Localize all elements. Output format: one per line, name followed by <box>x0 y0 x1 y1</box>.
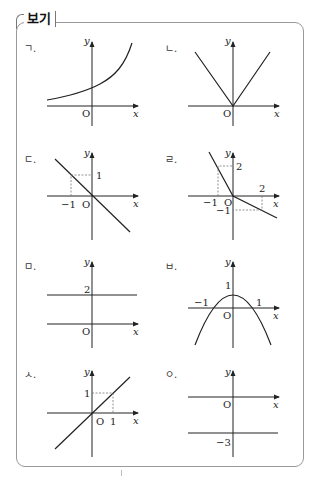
y-axis-label: y <box>83 256 90 267</box>
graph-d: ㄷ. 1 −1 y x O <box>24 147 139 240</box>
y-axis-label: y <box>83 366 90 377</box>
x-axis-label: x <box>133 415 139 426</box>
panel-label: ㅅ. <box>24 369 36 380</box>
y-axis-label: y <box>83 35 90 46</box>
x-axis-label: x <box>133 326 139 337</box>
tick-y-1: 1 <box>84 388 90 399</box>
panel-label: ㄷ. <box>24 154 36 165</box>
panel-label: ㅇ. <box>165 369 177 380</box>
y-axis-label: y <box>224 256 231 267</box>
origin-label: O <box>224 197 232 208</box>
graph-b: ㅂ. 1 −1 1 y x O <box>165 256 279 348</box>
graph-n: ㄴ. y x O <box>165 35 280 126</box>
panel-label: ㄴ. <box>165 43 177 54</box>
y-axis-label: y <box>224 35 231 46</box>
y-axis-label: y <box>83 147 90 158</box>
x-axis-label: x <box>274 108 280 119</box>
graph-s: ㅅ. 1 1 y x O <box>24 366 139 457</box>
tick-y-2: 2 <box>84 284 90 295</box>
tick-y-neg3: −3 <box>216 437 231 448</box>
graph-r: ㄹ. 2 2 −1 −1 y x O <box>165 147 279 240</box>
origin-label: O <box>82 108 90 119</box>
y-axis-label: y <box>224 366 231 377</box>
tick-y-1: 1 <box>225 280 231 291</box>
curve <box>47 43 132 100</box>
graph-o: ㅇ. −3 y x O <box>165 366 279 457</box>
origin-label: O <box>223 399 231 410</box>
tick-x-1: 1 <box>256 297 262 308</box>
x-axis-label: x <box>273 399 279 410</box>
tick-x-2: 2 <box>259 183 265 194</box>
panel-label: ㅂ. <box>165 261 177 272</box>
y-axis-label: y <box>224 147 231 158</box>
tick-y-1: 1 <box>96 170 102 181</box>
x-axis-label: x <box>133 108 139 119</box>
graph-g: ㄱ. y x O <box>24 35 139 126</box>
panel-label: ㅁ. <box>24 261 36 272</box>
origin-label: O <box>96 416 104 427</box>
x-axis-label: x <box>273 310 279 321</box>
tick-x-1: 1 <box>110 416 116 427</box>
tick-x-neg1: −1 <box>61 199 76 210</box>
tick-y-2: 2 <box>236 161 242 172</box>
panel-label: ㄱ. <box>24 43 36 54</box>
graph-grid: ㄱ. y x O ㄴ. y x O ㄷ. 1 −1 y x O ㄹ. <box>0 0 309 480</box>
origin-label: O <box>223 310 231 321</box>
panel-label: ㄹ. <box>165 154 177 165</box>
graph-m: ㅁ. 2 y x O <box>24 256 139 348</box>
origin-label: O <box>82 326 90 337</box>
page-mark <box>121 470 122 476</box>
x-axis-label: x <box>273 198 279 209</box>
x-axis-label: x <box>133 198 139 209</box>
origin-label: O <box>223 108 231 119</box>
tick-x-neg1: −1 <box>194 297 209 308</box>
origin-label: O <box>82 199 90 210</box>
